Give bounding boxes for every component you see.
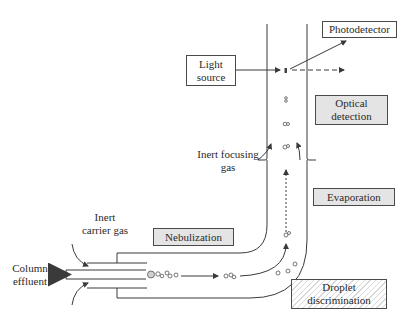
particles: [148, 97, 298, 279]
optical-detection-label: Optical detection: [331, 97, 371, 123]
inert-focusing-gas-label: Inert focusing gas: [183, 148, 273, 174]
inert-carrier-gas-label: Inert carrier gas: [70, 211, 140, 237]
tube-outer-right-wall: [307, 24, 316, 160]
light-source-label: Light source: [197, 58, 226, 84]
photodetector-box: Photodetector: [322, 21, 397, 38]
evaporation-label: Evaporation: [327, 191, 381, 204]
droplet-discrimination-box: Droplet discrimination: [291, 279, 387, 309]
optical-detection-box: Optical detection: [315, 95, 388, 125]
droplet-discrimination-label: Droplet discrimination: [307, 281, 371, 307]
column-effluent-label: Column effluent: [6, 262, 54, 288]
photodetector-label: Photodetector: [329, 23, 390, 36]
evaporation-box: Evaporation: [313, 188, 395, 206]
carrier-gas-arrow-bottom: [72, 283, 88, 305]
carrier-gas-arrow-top: [72, 244, 88, 266]
particle-in-beam: [285, 68, 288, 73]
nebulization-box: Nebulization: [153, 228, 234, 246]
light-source-box: Light source: [186, 55, 236, 86]
nebulization-label: Nebulization: [165, 231, 222, 244]
focusing-gas-arrow-right: [297, 143, 300, 160]
scattered-light-arrow: [290, 41, 346, 69]
